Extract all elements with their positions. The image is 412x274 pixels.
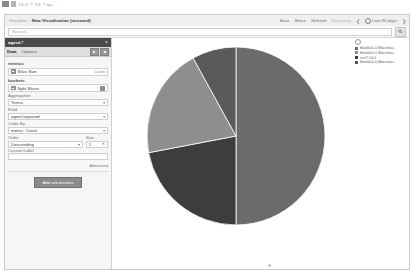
save-button[interactable]: Save <box>279 18 289 22</box>
aggregation-select[interactable]: Terms ▾ <box>8 99 108 106</box>
legend-swatch <box>355 61 358 64</box>
clock-icon <box>365 18 371 24</box>
legend-label: Mozilla/5.0 (Macintos... <box>360 46 397 49</box>
divider <box>8 171 108 172</box>
breadcrumb-current: New Visualization (unsaved) <box>32 18 91 22</box>
buckets-section-label: buckets <box>8 78 108 82</box>
chevron-down-icon: ▾ <box>103 128 105 132</box>
time-prev-icon[interactable]: ❮ <box>356 18 360 24</box>
breadcrumb-visualize[interactable]: Visualize <box>9 18 27 22</box>
aggregation-label: Aggregation <box>8 93 108 97</box>
stepper-arrows[interactable]: ▲ ▼ <box>101 142 105 146</box>
pie-svg <box>146 46 326 226</box>
order-by-field: Order By metric: Count ▾ <box>8 121 108 134</box>
order-by-label: Order By <box>8 121 108 125</box>
advanced-toggle[interactable]: Advanced <box>8 163 108 167</box>
search-input[interactable]: Search... <box>8 28 392 36</box>
search-button[interactable] <box>395 27 406 37</box>
query-bar: Search... <box>5 26 409 38</box>
bucket-controls: ‹ <box>97 86 105 91</box>
order-label: Order <box>8 135 83 139</box>
chart-legend: Mozilla/5.0 (Macintos...Mozilla/5.0 (Mac… <box>355 39 407 65</box>
legend-toggle-icon <box>355 39 361 45</box>
sidebar-tabs: Data Options <box>5 47 111 57</box>
time-picker[interactable]: Last 30 days <box>365 18 397 24</box>
metric-value: Count <box>94 69 105 73</box>
field-field: Field agent.keyword ▾ <box>8 107 108 120</box>
legend-label: Mozilla/5.0 (Macintos... <box>360 61 397 64</box>
refresh-button[interactable]: Refresh <box>311 18 326 22</box>
breadcrumb-separator: / <box>29 18 30 22</box>
chrome-tab-title: 15,5 ? 16 ? qu... <box>18 2 58 7</box>
legend-item[interactable]: Mozilla/5.0 (Macintos... <box>355 60 407 64</box>
bar-icon <box>11 69 16 74</box>
legend-swatch <box>355 56 358 59</box>
size-value: 5 <box>89 142 91 146</box>
breadcrumb: Visualize / New Visualization (unsaved) <box>5 18 91 23</box>
chevron-down-icon: ▾ <box>103 100 105 104</box>
metric-label: Slice Size <box>18 69 37 73</box>
sidebar-header: agent.* × <box>5 38 111 47</box>
aggregation-field: Aggregation Terms ▾ <box>8 93 108 106</box>
bucket-split-slices-row[interactable]: Split Slices ‹ <box>8 84 108 92</box>
chrome-square-icon <box>2 1 9 7</box>
browser-chrome-strip: 15,5 ? 16 ? qu... <box>0 0 412 11</box>
custom-label-input[interactable] <box>8 153 108 160</box>
chrome-tab-icon <box>11 1 16 7</box>
reporting-button[interactable]: Reporting <box>332 18 351 22</box>
chevron-down-icon: ▾ <box>103 114 105 118</box>
field-label: Field <box>8 107 108 111</box>
metrics-section-label: metrics <box>8 61 108 65</box>
legend-item[interactable]: Mozilla/5.0 (Macintos... <box>355 46 407 50</box>
order-by-select[interactable]: metric: Count ▾ <box>8 127 108 134</box>
tab-options[interactable]: Options <box>22 49 37 53</box>
add-sub-buckets-label: Add sub-buckets <box>42 180 73 184</box>
app-frame: Visualize / New Visualization (unsaved) … <box>4 14 410 270</box>
order-size-row: Order Descending ▾ Size 5 ▲ <box>8 135 108 148</box>
legend-toggle[interactable] <box>355 39 407 45</box>
pie-slice[interactable] <box>236 47 325 225</box>
legend-item[interactable]: curl/7.54.0 <box>355 56 407 60</box>
chrome-tab-bits: 15,5 ? 16 ? qu... <box>2 1 58 7</box>
share-button[interactable]: Share <box>294 18 306 22</box>
time-range-label: Last 30 days <box>372 18 397 22</box>
resize-handle[interactable] <box>268 264 271 267</box>
field-value: agent.keyword <box>11 114 40 118</box>
custom-label-field: Custom Label <box>8 148 108 161</box>
visualization-editor-sidebar: agent.* × Data Options metrics Slice <box>5 38 112 269</box>
search-placeholder: Search... <box>12 29 30 33</box>
pie-slices[interactable] <box>147 47 325 225</box>
metric-slice-size-row[interactable]: Slice Size Count <box>8 68 108 76</box>
apply-icon <box>104 51 106 53</box>
top-actions: Save Share Refresh Reporting ❮ Last 30 d… <box>279 18 409 24</box>
remove-bucket-button[interactable] <box>100 86 105 91</box>
chevron-down-icon: ▾ <box>78 142 80 146</box>
order-field: Order Descending ▾ <box>8 135 83 148</box>
sidebar-content: metrics Slice Size Count buckets Split S… <box>5 57 111 188</box>
sidebar-tab-buttons <box>90 48 110 56</box>
size-field: Size 5 ▲ ▼ <box>86 135 108 148</box>
collapse-icon <box>93 51 95 53</box>
legend-items: Mozilla/5.0 (Macintos...Mozilla/5.0 (Mac… <box>355 46 407 64</box>
size-stepper[interactable]: 5 ▲ ▼ <box>86 141 108 148</box>
order-select[interactable]: Descending ▾ <box>8 141 83 148</box>
close-icon[interactable]: × <box>105 40 108 45</box>
tab-data[interactable]: Data <box>7 49 17 53</box>
collapse-button[interactable] <box>90 48 99 56</box>
add-sub-buckets-button[interactable]: Add sub-buckets <box>34 177 82 188</box>
metric-value-group: Count <box>94 69 105 74</box>
stepper-down-icon: ▼ <box>101 144 105 146</box>
order-value: Descending <box>11 142 34 146</box>
legend-label: Mozilla/5.0 (Macintos... <box>360 51 397 54</box>
legend-swatch <box>355 47 358 50</box>
apply-button[interactable] <box>100 48 109 56</box>
time-next-icon[interactable]: ❯ <box>402 18 406 24</box>
kibana-visualize-app: 15,5 ? 16 ? qu... Visualize / New Visual… <box>0 0 412 274</box>
editor-body: agent.* × Data Options metrics Slice <box>5 38 409 269</box>
field-select[interactable]: agent.keyword ▾ <box>8 113 108 120</box>
legend-item[interactable]: Mozilla/5.0 (Macintos... <box>355 51 407 55</box>
chevron-left-icon[interactable]: ‹ <box>97 86 99 91</box>
legend-swatch <box>355 51 358 54</box>
aggregation-value: Terms <box>11 100 23 104</box>
sidebar-title: agent.* <box>8 40 23 44</box>
